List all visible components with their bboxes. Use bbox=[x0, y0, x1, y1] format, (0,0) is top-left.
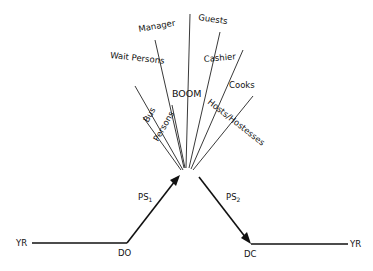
label-hosts-hostesses: Hosts/Hostesses bbox=[206, 97, 268, 148]
label-do: DO bbox=[118, 248, 132, 258]
timeline bbox=[32, 175, 348, 244]
label-ps2: PS2 bbox=[226, 192, 241, 203]
label-ps1: PS1 bbox=[138, 192, 153, 203]
boom-diagram: Manager Guests Wait Persons Cashier Cook… bbox=[0, 0, 373, 271]
label-wait-persons: Wait Persons bbox=[110, 50, 166, 66]
label-yr-end: YR bbox=[349, 239, 361, 249]
label-boom: BOOM bbox=[172, 88, 202, 99]
label-dc: DC bbox=[244, 249, 257, 259]
label-guests: Guests bbox=[198, 12, 229, 26]
label-cooks: Cooks bbox=[229, 80, 255, 90]
label-manager: Manager bbox=[138, 18, 177, 34]
label-yr-start: YR bbox=[15, 238, 27, 248]
label-cashier: Cashier bbox=[203, 51, 236, 64]
